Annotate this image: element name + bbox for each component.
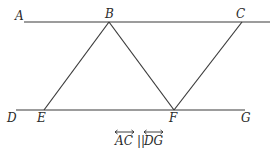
label-e: E bbox=[36, 111, 46, 125]
label-b: B bbox=[104, 7, 114, 21]
segment-bf bbox=[109, 22, 174, 110]
label-d: D bbox=[6, 111, 17, 125]
segment-cf bbox=[174, 22, 242, 110]
label-f: F bbox=[168, 111, 178, 125]
geometry-diagram: A B C D E F G AC || DG bbox=[0, 0, 280, 152]
label-a: A bbox=[14, 9, 24, 23]
parallel-caption: AC || DG bbox=[114, 130, 164, 148]
segment-be bbox=[44, 22, 109, 110]
caption-left: AC bbox=[114, 134, 133, 148]
label-c: C bbox=[236, 7, 245, 21]
label-g: G bbox=[241, 111, 251, 125]
caption-right: DG bbox=[143, 134, 164, 148]
